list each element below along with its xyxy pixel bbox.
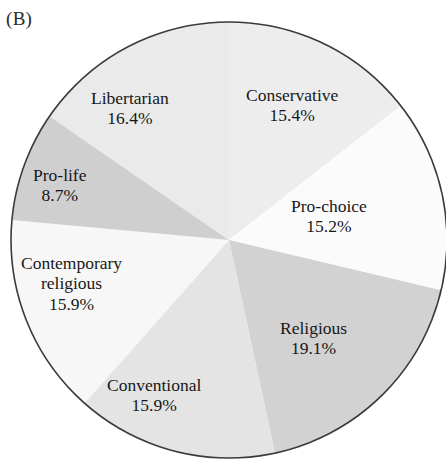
slice-label-contemporary-religious-name2: religious xyxy=(21,273,122,293)
slice-label-libertarian: Libertarian 16.4% xyxy=(91,88,169,129)
slice-label-conventional-value: 15.9% xyxy=(107,395,201,415)
slice-label-pro-choice: Pro-choice 15.2% xyxy=(291,196,367,237)
slice-label-conservative-value: 15.4% xyxy=(246,105,338,125)
slice-label-religious: Religious 19.1% xyxy=(280,318,347,359)
slice-label-pro-life: Pro-life 8.7% xyxy=(33,165,86,206)
slice-label-pro-life-name: Pro-life xyxy=(33,165,86,185)
slice-label-conservative-name: Conservative xyxy=(246,85,338,105)
slice-label-religious-name: Religious xyxy=(280,318,347,338)
pie-slices-group xyxy=(11,22,446,458)
slice-label-pro-life-value: 8.7% xyxy=(33,185,86,205)
slice-label-libertarian-name: Libertarian xyxy=(91,88,169,108)
slice-label-contemporary-religious: Contemporary religious 15.9% xyxy=(21,253,122,314)
slice-label-contemporary-religious-name: Contemporary xyxy=(21,253,122,273)
slice-label-conventional-name: Conventional xyxy=(107,375,201,395)
pie-chart-svg xyxy=(0,0,446,468)
slice-label-conventional: Conventional 15.9% xyxy=(107,375,201,416)
slice-label-contemporary-religious-value: 15.9% xyxy=(21,294,122,314)
slice-label-conservative: Conservative 15.4% xyxy=(246,85,338,126)
slice-label-libertarian-value: 16.4% xyxy=(91,108,169,128)
pie-chart: Conservative 15.4% Pro-choice 15.2% Reli… xyxy=(0,0,446,468)
slice-label-pro-choice-name: Pro-choice xyxy=(291,196,367,216)
slice-label-pro-choice-value: 15.2% xyxy=(291,216,367,236)
slice-label-religious-value: 19.1% xyxy=(280,338,347,358)
